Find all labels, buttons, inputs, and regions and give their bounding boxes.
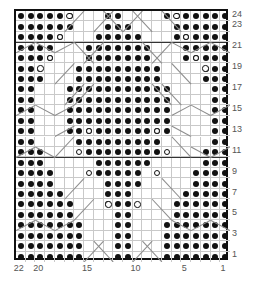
- chart-cell: [94, 11, 104, 21]
- purl-stitch-symbol: [47, 254, 53, 260]
- purl-stitch-symbol: [203, 160, 209, 166]
- chart-cell: [45, 95, 55, 105]
- purl-stitch-symbol: [18, 45, 24, 51]
- chart-cell: [65, 168, 75, 178]
- purl-stitch-symbol: [76, 254, 82, 260]
- chart-cell: [162, 168, 172, 178]
- chart-cell: [172, 95, 182, 105]
- chart-cell: [35, 116, 45, 126]
- chart-cell: [55, 126, 65, 136]
- column-label: 20: [28, 264, 48, 273]
- chart-cell: [55, 147, 65, 157]
- purl-stitch-symbol: [67, 24, 73, 30]
- chart-cell: [172, 126, 182, 136]
- purl-stitch-symbol: [86, 66, 92, 72]
- purl-stitch-symbol: [28, 66, 34, 72]
- purl-stitch-symbol: [76, 118, 82, 124]
- purl-stitch-symbol: [193, 24, 199, 30]
- chart-cell: [172, 84, 182, 94]
- chart-cell: [45, 116, 55, 126]
- chart-cell: [123, 11, 133, 21]
- purl-stitch-symbol: [115, 66, 121, 72]
- row-label: 5: [232, 208, 258, 217]
- chart-cell: [94, 178, 104, 188]
- chart-cell: [55, 95, 65, 105]
- chart-cell: [142, 21, 152, 31]
- chart-cell: [152, 157, 162, 167]
- purl-stitch-symbol: [18, 34, 24, 40]
- purl-stitch-symbol: [28, 181, 34, 187]
- chart-cell: [172, 137, 182, 147]
- chart-cell: [55, 168, 65, 178]
- chart-cell: [84, 178, 94, 188]
- purl-stitch-symbol: [96, 128, 102, 134]
- purl-stitch-symbol: [18, 76, 24, 82]
- chart-cell: [45, 74, 55, 84]
- purl-stitch-symbol: [57, 191, 63, 197]
- chart-cell: [74, 53, 84, 63]
- chart-cell: [152, 178, 162, 188]
- chart-cell: [172, 147, 182, 157]
- row-label: 21: [232, 41, 258, 50]
- chart-cell: [162, 53, 172, 63]
- purl-stitch-symbol: [37, 181, 43, 187]
- chart-cell: [84, 32, 94, 42]
- purl-stitch-symbol: [154, 118, 160, 124]
- chart-cell: [181, 63, 191, 73]
- purl-stitch-symbol: [96, 160, 102, 166]
- purl-stitch-symbol: [47, 181, 53, 187]
- purl-stitch-symbol: [18, 170, 24, 176]
- purl-stitch-symbol: [135, 160, 141, 166]
- purl-stitch-symbol: [18, 254, 24, 260]
- chart-cell: [84, 157, 94, 167]
- chart-cell: [45, 63, 55, 73]
- purl-stitch-symbol: [57, 13, 63, 19]
- purl-stitch-symbol: [18, 66, 24, 72]
- purl-stitch-symbol: [28, 254, 34, 260]
- chart-cell: [84, 199, 94, 209]
- purl-stitch-symbol: [115, 118, 121, 124]
- purl-stitch-symbol: [222, 24, 228, 30]
- purl-stitch-symbol: [28, 55, 34, 61]
- purl-stitch-symbol: [28, 34, 34, 40]
- purl-stitch-symbol: [28, 45, 34, 51]
- purl-stitch-symbol: [18, 24, 24, 30]
- chart-cell: [45, 137, 55, 147]
- chart-cell: [55, 137, 65, 147]
- purl-stitch-symbol: [37, 160, 43, 166]
- purl-stitch-symbol: [125, 254, 131, 260]
- purl-stitch-symbol: [86, 97, 92, 103]
- purl-stitch-symbol: [222, 139, 228, 145]
- chart-cell: [191, 63, 201, 73]
- row-label: 23: [232, 20, 258, 29]
- chart-cell: [162, 32, 172, 42]
- chart-cell: [65, 32, 75, 42]
- purl-stitch-symbol: [28, 212, 34, 218]
- purl-stitch-symbol: [86, 76, 92, 82]
- purl-stitch-symbol: [154, 139, 160, 145]
- yarn-over-symbol: [173, 13, 179, 19]
- chart-cell: [94, 252, 104, 262]
- purl-stitch-symbol: [193, 191, 199, 197]
- chart-cell: [35, 105, 45, 115]
- chart-cell: [162, 42, 172, 52]
- purl-stitch-symbol: [96, 170, 102, 176]
- chart-cell: [142, 199, 152, 209]
- purl-stitch-symbol: [203, 76, 209, 82]
- row-label: 17: [232, 83, 258, 92]
- purl-stitch-symbol: [193, 254, 199, 260]
- chart-cell: [152, 210, 162, 220]
- purl-stitch-symbol: [96, 55, 102, 61]
- chart-cell: [152, 241, 162, 251]
- purl-stitch-symbol: [125, 97, 131, 103]
- chart-cell: [172, 168, 182, 178]
- row-label: 9: [232, 167, 258, 176]
- purl-stitch-symbol: [212, 181, 218, 187]
- chart-cell: [172, 157, 182, 167]
- purl-stitch-symbol: [135, 139, 141, 145]
- purl-stitch-symbol: [203, 13, 209, 19]
- purl-stitch-symbol: [164, 118, 170, 124]
- purl-stitch-symbol: [222, 181, 228, 187]
- chart-cell: [84, 210, 94, 220]
- purl-stitch-symbol: [222, 160, 228, 166]
